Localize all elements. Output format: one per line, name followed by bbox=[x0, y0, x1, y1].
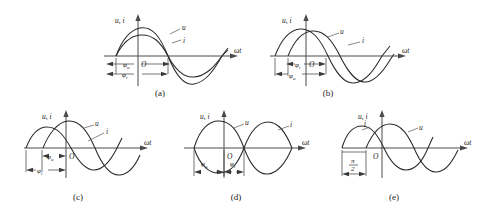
dim-phi-i-arrow-l bbox=[26, 168, 33, 172]
dim-phi-i-arrow-r bbox=[237, 170, 244, 174]
dim-phi-u-arrow-r bbox=[59, 154, 66, 158]
phi-u-label: φu bbox=[289, 72, 296, 81]
y-axis-label: u, i bbox=[42, 112, 52, 121]
leader-u bbox=[170, 29, 180, 34]
panel-b-caption: (b) bbox=[308, 88, 348, 98]
panel-a: u i u, i ωt O φu φi (a) bbox=[96, 12, 244, 92]
panel-d-plot: u i u, i ωt O φu φi bbox=[176, 108, 318, 188]
panel-a-caption: (a) bbox=[140, 88, 180, 98]
dim-phi-u-arrow-r bbox=[163, 62, 170, 66]
y-axis-label: u, i bbox=[200, 112, 210, 121]
y-axis-arrow bbox=[303, 14, 308, 21]
panel-e: i u u, i ωt O π 2 (e) bbox=[336, 108, 482, 188]
curve-i-label: i bbox=[183, 36, 185, 45]
y-axis-arrow bbox=[221, 110, 226, 117]
y-axis-arrow bbox=[135, 14, 140, 21]
curve-u-label: u bbox=[182, 23, 186, 32]
curve-i-label: i bbox=[106, 127, 108, 136]
y-axis-arrow bbox=[379, 110, 384, 117]
curve-u-label: u bbox=[245, 118, 249, 127]
x-axis-label: ωt bbox=[302, 138, 310, 147]
dim-phi-u-arrow-l bbox=[194, 170, 201, 174]
x-axis-label: ωt bbox=[144, 138, 152, 147]
panel-b: u i u, i ωt O φi φu (b) bbox=[262, 12, 414, 92]
dim-phi-i-arrow-r bbox=[161, 72, 168, 76]
leader-i bbox=[88, 133, 104, 141]
y-axis-label: u, i bbox=[115, 16, 125, 25]
curve-u-label: u bbox=[419, 123, 423, 132]
dim-arrow-l bbox=[342, 172, 349, 176]
dim-phi-i-arrow-r bbox=[319, 62, 326, 66]
leader-i bbox=[348, 42, 360, 45]
leader-u bbox=[234, 124, 244, 128]
dim-phi-u-arrow-l bbox=[275, 72, 282, 76]
x-axis-label: ωt bbox=[234, 46, 242, 55]
curve-i-label: i bbox=[290, 120, 292, 129]
origin-label: O bbox=[69, 152, 75, 161]
y-axis-label: u, i bbox=[358, 112, 368, 121]
origin-label: O bbox=[309, 60, 315, 69]
panel-c: u i u, i ωt O φu φi (c) bbox=[18, 108, 158, 188]
y-axis-arrow bbox=[63, 110, 68, 117]
phi-i-label: φi bbox=[295, 61, 301, 70]
curve-u bbox=[194, 121, 292, 174]
phi-i-label: φi bbox=[230, 160, 236, 169]
leader-u bbox=[84, 125, 94, 128]
leader-i bbox=[172, 40, 181, 43]
dim-phi-u-arrow-r bbox=[217, 170, 224, 174]
curve-i-label: i bbox=[362, 36, 364, 45]
panel-a-plot: u i u, i ωt O φu φi bbox=[96, 12, 244, 92]
curve-u-label: u bbox=[340, 27, 344, 36]
pi-denominator: 2 bbox=[351, 165, 355, 173]
panel-d-caption: (d) bbox=[216, 192, 256, 202]
dim-phi-i-arrow-r bbox=[59, 168, 66, 172]
origin-label: O bbox=[373, 152, 379, 161]
dim-arrow-r bbox=[359, 172, 366, 176]
panel-d: u i u, i ωt O φu φi (d) bbox=[176, 108, 318, 188]
phi-i-label: φi bbox=[122, 71, 128, 80]
dim-phi-i-arrow-l bbox=[286, 62, 293, 66]
dim-phi-u-arrow-r bbox=[319, 72, 326, 76]
phi-u-label: φu bbox=[201, 160, 208, 169]
x-axis-label: ωt bbox=[464, 138, 472, 147]
leader-u bbox=[408, 128, 418, 132]
dim-phi-i-arrow-l bbox=[106, 72, 113, 76]
dim-phi-u-arrow-l bbox=[106, 62, 113, 66]
pi-numerator: π bbox=[351, 157, 355, 165]
y-axis-label: u, i bbox=[282, 16, 292, 25]
panel-e-plot: i u u, i ωt O π 2 bbox=[336, 108, 482, 188]
panel-c-caption: (c) bbox=[58, 192, 98, 202]
panel-e-caption: (e) bbox=[374, 192, 414, 202]
leader-u bbox=[328, 33, 339, 37]
phi-u-label: φu bbox=[123, 61, 130, 70]
phi-u-label: φu bbox=[47, 153, 54, 162]
x-axis-label: ωt bbox=[402, 46, 410, 55]
panel-c-plot: u i u, i ωt O φu φi bbox=[18, 108, 158, 188]
panel-b-plot: u i u, i ωt O φi φu bbox=[262, 12, 414, 92]
origin-label: O bbox=[141, 60, 147, 69]
curve-u-label: u bbox=[95, 119, 99, 128]
